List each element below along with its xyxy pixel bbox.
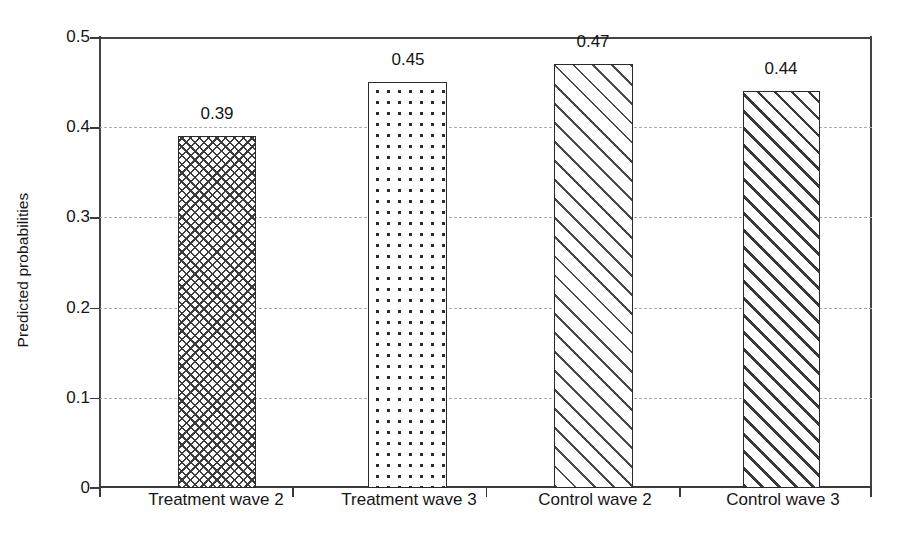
bar-control-wave-3[interactable] [743, 91, 820, 488]
bar-treatment-wave-3[interactable] [368, 82, 447, 488]
bar-chart-figure: Predicted probabilities 0 0.1 0.2 0.3 0.… [0, 0, 907, 540]
x-tick-mark-4 [870, 487, 872, 497]
y-tick-label-0.5: 0.5 [46, 27, 90, 47]
x-tick-mark-0 [99, 487, 101, 497]
y-tick-mark-0.1 [90, 398, 100, 400]
y-axis-tick-labels: 0 0.1 0.2 0.3 0.4 0.5 [46, 0, 90, 540]
x-category-label-control-wave-2: Control wave 2 [538, 490, 651, 510]
axis-line-right [870, 36, 872, 489]
y-tick-label-0.4: 0.4 [46, 117, 90, 137]
y-tick-mark-0.2 [90, 308, 100, 310]
y-tick-label-0: 0 [46, 478, 90, 498]
y-tick-label-0.2: 0.2 [46, 298, 90, 318]
bar-value-label-control-wave-2: 0.47 [576, 32, 609, 52]
axis-line-left [99, 36, 101, 489]
y-tick-mark-0.5 [90, 37, 100, 39]
bar-value-label-treatment-wave-3: 0.45 [391, 50, 424, 70]
y-tick-mark-0.4 [90, 127, 100, 129]
axis-line-top [99, 37, 872, 39]
bar-value-label-control-wave-3: 0.44 [764, 59, 797, 79]
x-category-label-control-wave-3: Control wave 3 [726, 490, 839, 510]
y-axis-title: Predicted probabilities [0, 0, 46, 540]
bar-treatment-wave-2[interactable] [178, 136, 256, 488]
bar-value-label-treatment-wave-2: 0.39 [200, 104, 233, 124]
x-tick-mark-3 [679, 487, 681, 497]
y-tick-mark-0.3 [90, 217, 100, 219]
x-category-label-treatment-wave-3: Treatment wave 3 [341, 490, 476, 510]
x-category-label-treatment-wave-2: Treatment wave 2 [148, 490, 283, 510]
y-tick-label-0.3: 0.3 [46, 207, 90, 227]
x-tick-mark-2 [486, 487, 488, 497]
bar-control-wave-2[interactable] [554, 64, 633, 488]
y-tick-label-0.1: 0.1 [46, 388, 90, 408]
x-tick-mark-1 [292, 487, 294, 497]
